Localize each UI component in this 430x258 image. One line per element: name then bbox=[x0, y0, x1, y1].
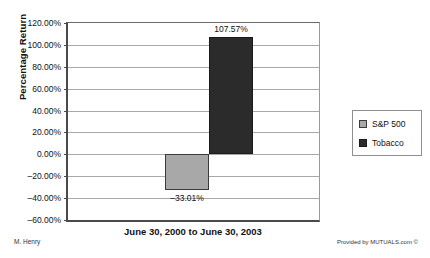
y-tick-mark bbox=[64, 198, 68, 199]
bar-sp500[interactable] bbox=[165, 154, 209, 190]
bar-value-label-sp500: –33.01% bbox=[170, 193, 204, 203]
y-tick-mark bbox=[64, 23, 68, 24]
y-tick-label: 120.00% bbox=[27, 18, 61, 28]
y-tick-mark bbox=[64, 67, 68, 68]
legend-swatch-tobacco bbox=[359, 139, 367, 147]
y-tick-mark bbox=[64, 154, 68, 155]
gridline bbox=[68, 67, 319, 68]
gridline bbox=[68, 89, 319, 90]
y-tick-label: 60.00% bbox=[32, 84, 61, 94]
bar-tobacco[interactable] bbox=[209, 37, 253, 155]
bar-value-label-tobacco: 107.57% bbox=[214, 24, 248, 34]
y-tick-label: 100.00% bbox=[27, 40, 61, 50]
credit-author: M. Henry bbox=[14, 238, 40, 245]
gridline bbox=[68, 111, 319, 112]
y-tick-label: –40.00% bbox=[27, 193, 61, 203]
gridline bbox=[68, 132, 319, 133]
legend-label-tobacco: Tobacco bbox=[372, 138, 404, 148]
y-tick-mark bbox=[64, 89, 68, 90]
y-tick-label: –20.00% bbox=[27, 171, 61, 181]
y-tick-label: 20.00% bbox=[32, 127, 61, 137]
x-axis-title: June 30, 2000 to June 30, 2003 bbox=[66, 226, 320, 237]
chart-figure: Percentage Return 120.00%100.00%80.00%60… bbox=[0, 0, 430, 258]
chart-legend: S&P 500 Tobacco bbox=[352, 110, 422, 156]
y-tick-label: 80.00% bbox=[32, 62, 61, 72]
legend-item-sp500[interactable]: S&P 500 bbox=[359, 116, 416, 131]
legend-label-sp500: S&P 500 bbox=[372, 119, 405, 129]
plot-area: 120.00%100.00%80.00%60.00%40.00%20.00%0.… bbox=[66, 22, 320, 222]
y-tick-mark bbox=[64, 220, 68, 221]
y-tick-label: 0.00% bbox=[37, 149, 61, 159]
y-tick-mark bbox=[64, 111, 68, 112]
legend-item-tobacco[interactable]: Tobacco bbox=[359, 135, 416, 150]
legend-swatch-sp500 bbox=[359, 120, 367, 128]
y-tick-mark bbox=[64, 45, 68, 46]
credit-provider: Provided by MUTUALS.com © bbox=[337, 239, 418, 245]
y-tick-label: –60.00% bbox=[27, 215, 61, 225]
y-tick-label: 40.00% bbox=[32, 106, 61, 116]
y-tick-mark bbox=[64, 132, 68, 133]
y-tick-mark bbox=[64, 176, 68, 177]
gridline bbox=[68, 45, 319, 46]
